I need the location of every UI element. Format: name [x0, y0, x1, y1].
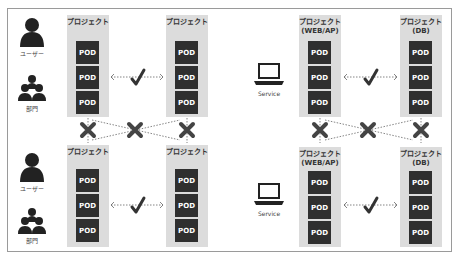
connector-overlay — [0, 0, 458, 259]
cross-icon — [129, 124, 141, 136]
cross-icon — [362, 124, 374, 136]
